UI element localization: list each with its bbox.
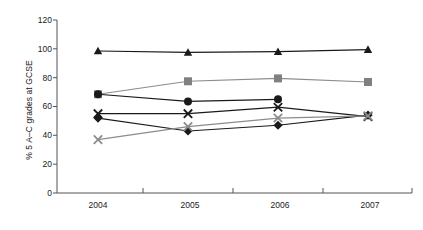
series-series-triangle [94, 45, 372, 55]
data-point [184, 77, 192, 85]
plot-area [0, 0, 423, 230]
data-point [274, 95, 282, 103]
data-point [184, 97, 192, 105]
series-series-circle [94, 90, 282, 105]
data-point [94, 90, 102, 98]
series-line [98, 50, 368, 53]
axis-lines [57, 20, 412, 193]
data-point [364, 78, 372, 86]
series-series-cross-black [94, 103, 372, 121]
y-axis-ticks [53, 20, 57, 193]
series-line [98, 78, 368, 94]
series-line [98, 115, 368, 131]
data-series-layer [93, 45, 372, 144]
series-line [98, 107, 368, 116]
data-point [93, 113, 102, 122]
x-axis-ticks [143, 188, 323, 193]
series-series-diamond [93, 111, 372, 136]
data-point [274, 74, 282, 82]
chart-container: % 5 A–C grades at GCSE 120 100 80 60 40 … [0, 0, 423, 230]
series-series-square [94, 74, 372, 98]
